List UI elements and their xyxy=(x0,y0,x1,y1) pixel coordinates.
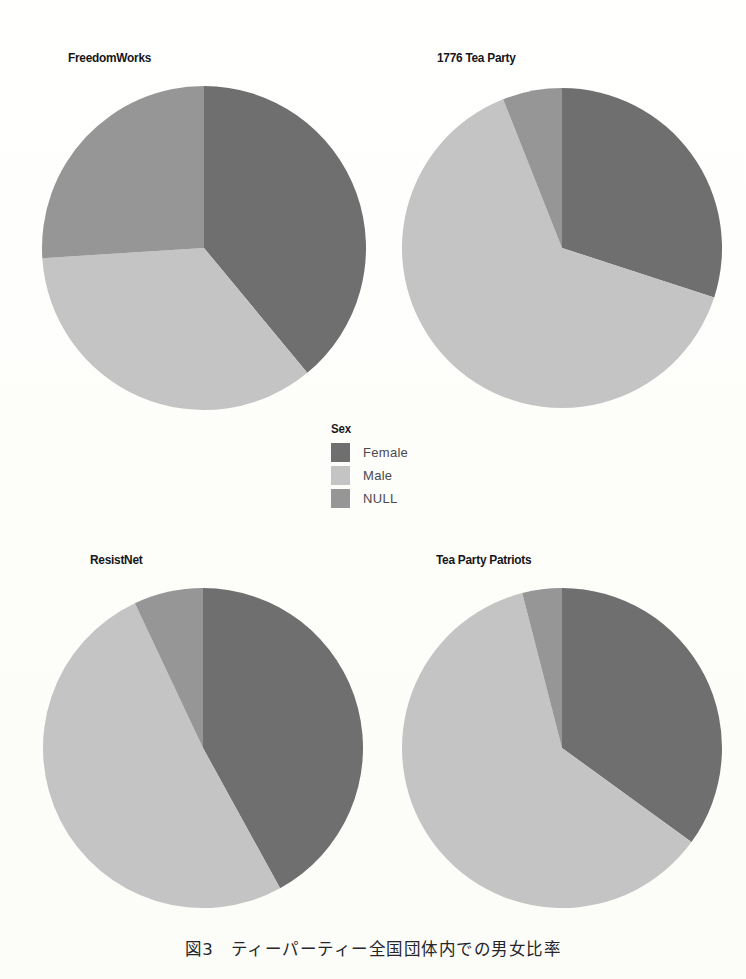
legend: Sex Female Male NULL xyxy=(331,422,408,510)
pie-graphic-tea-party-patriots xyxy=(380,500,746,930)
pie-chart-1776-tea-party: 1776 Tea Party xyxy=(380,0,746,430)
legend-item-male[interactable]: Male xyxy=(331,464,408,487)
pie-graphic-resistnet xyxy=(0,500,420,930)
pie-chart-freedomworks: FreedomWorks xyxy=(0,0,420,430)
legend-item-female[interactable]: Female xyxy=(331,441,408,464)
pie-svg-resistnet xyxy=(0,500,420,930)
pie-svg-1776-tea-party xyxy=(380,0,746,430)
legend-label-male: Male xyxy=(363,468,392,483)
pie-graphic-freedomworks xyxy=(0,0,420,430)
legend-label-female: Female xyxy=(363,445,408,460)
pie-svg-freedomworks xyxy=(0,0,420,430)
pie-slice-null[interactable] xyxy=(42,86,204,258)
legend-swatch-female xyxy=(331,443,350,462)
pie-graphic-1776-tea-party xyxy=(380,0,746,430)
pie-chart-resistnet: ResistNet xyxy=(0,500,420,930)
legend-swatch-male xyxy=(331,466,350,485)
pie-svg-tea-party-patriots xyxy=(380,500,746,930)
legend-title: Sex xyxy=(331,422,402,436)
figure-sheet: FreedomWorks 1776 Tea Party Sex Female M… xyxy=(0,0,746,979)
figure-caption: 図3 ティーパーティー全国団体内での男女比率 xyxy=(0,936,746,960)
pie-chart-tea-party-patriots: Tea Party Patriots xyxy=(380,500,746,930)
